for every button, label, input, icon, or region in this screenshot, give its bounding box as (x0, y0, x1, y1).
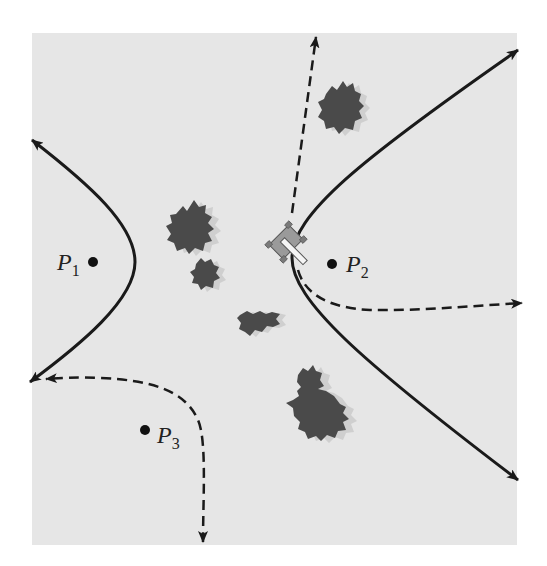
point-p2-subscript: 2 (361, 264, 369, 281)
hyperbola-diagram: P1 P2 P3 (0, 0, 547, 566)
point-p2-dot (327, 259, 337, 269)
point-p3-letter: P (156, 422, 172, 448)
field-background (32, 33, 517, 545)
point-p1-subscript: 1 (72, 262, 80, 279)
point-p3-dot (140, 425, 150, 435)
point-p1-letter: P (56, 249, 72, 275)
point-p3-subscript: 3 (172, 435, 180, 452)
point-p2-letter: P (345, 251, 361, 277)
point-p1-dot (88, 257, 98, 267)
